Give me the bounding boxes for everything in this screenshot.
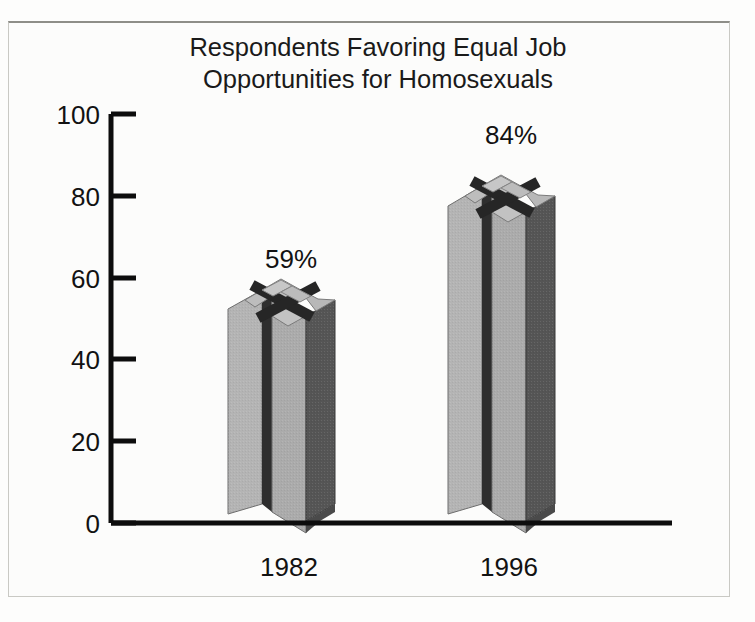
- x-axis: 1982 1996: [111, 523, 672, 582]
- bar-1982-left-recess: [262, 290, 272, 512]
- bar-1996: 84%: [448, 120, 555, 533]
- y-axis-label-40: 40: [71, 345, 100, 375]
- bar-1996-front-arm-texture: [492, 192, 526, 533]
- y-axis-label-100: 100: [57, 100, 100, 130]
- bar-1982-value-label: 59%: [265, 244, 317, 274]
- y-axis-label-80: 80: [71, 182, 100, 212]
- bar-1996-value-label: 84%: [485, 120, 537, 150]
- bar-1996-left-recess: [482, 186, 492, 512]
- bar-1996-right-arm-texture: [526, 196, 555, 521]
- bar-1982: 59%: [228, 244, 335, 533]
- chart-title-line-2: Opportunities for Homosexuals: [203, 65, 553, 93]
- bar-1996-left-arm-texture: [448, 186, 482, 514]
- y-axis-label-20: 20: [71, 427, 100, 457]
- chart-title-line-1: Respondents Favoring Equal Job: [189, 33, 566, 61]
- chart-svg: Respondents Favoring Equal Job Opportuni…: [0, 0, 755, 622]
- y-axis-label-0: 0: [86, 509, 100, 539]
- bar-1982-left-arm-texture: [228, 290, 262, 514]
- bar-chart: Respondents Favoring Equal Job Opportuni…: [0, 0, 755, 622]
- chart-page: Respondents Favoring Equal Job Opportuni…: [0, 0, 755, 622]
- y-axis: 100 80 60 40 20 0: [57, 100, 136, 539]
- bar-1982-front-arm-texture: [272, 296, 306, 533]
- bar-1982-right-arm-texture: [306, 300, 335, 521]
- x-axis-label-1982: 1982: [260, 552, 318, 582]
- x-axis-label-1996: 1996: [480, 552, 538, 582]
- chart-title: Respondents Favoring Equal Job Opportuni…: [189, 33, 566, 93]
- y-axis-label-60: 60: [71, 264, 100, 294]
